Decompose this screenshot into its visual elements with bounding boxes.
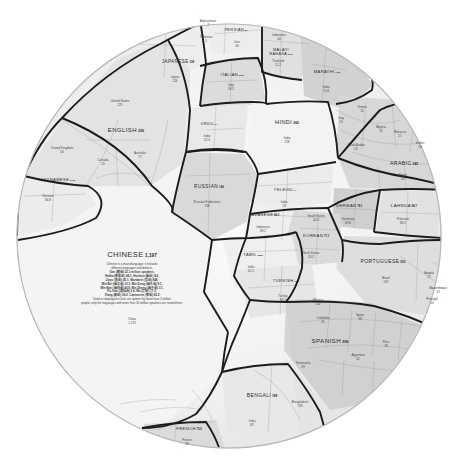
country-label: Yemen15: [357, 106, 367, 113]
country-label: Russian Federation138: [194, 201, 221, 208]
country-label: Argentina41: [351, 354, 364, 361]
country-value: 41: [356, 357, 359, 361]
chinese-macrolanguage-note: Chinese is a macrolanguage: it includesd…: [67, 263, 197, 306]
country-label: Angola12: [424, 272, 434, 279]
voronoi-circle-svg: [0, 0, 458, 473]
country-label: India52.3: [204, 135, 211, 142]
country-label: China1,191: [128, 318, 136, 325]
country-value: 17: [138, 155, 141, 159]
country-value: 1,191: [128, 321, 136, 325]
country-value: 21: [398, 134, 401, 138]
country-label: India258: [284, 137, 291, 144]
country-value: 15: [360, 109, 363, 113]
country-value: 52.3: [204, 138, 210, 142]
country-label: France59: [182, 439, 192, 446]
country-label: Indonesia44: [272, 34, 285, 41]
country-label: Turkey66.3: [278, 295, 287, 302]
country-value: 69.8: [345, 221, 351, 225]
country-label: Colombia45: [316, 317, 329, 324]
country-label: Japan126: [171, 76, 179, 83]
country-label: Saudi Arabia24: [347, 144, 365, 151]
country-value: 32: [379, 129, 382, 133]
country-label: Indonesia83.2: [256, 226, 269, 233]
country-value: 45: [321, 320, 324, 324]
country-value: 66.3: [280, 298, 286, 302]
language-treemap-infographic: CHINESE 1,197China1,191SPANISH 399Mexico…: [0, 0, 458, 473]
country-value: 138: [204, 204, 209, 208]
country-label: United Kingdom56: [51, 147, 73, 154]
shade-overlay: [286, 302, 440, 441]
cell-urdu: [184, 104, 248, 152]
country-value: 58.5: [228, 87, 234, 91]
country-value: 83.2: [260, 229, 266, 233]
country-value: 44: [277, 37, 280, 41]
country-value: 13: [436, 290, 439, 294]
country-label: Canada20: [98, 159, 109, 166]
country-label: India82: [249, 420, 256, 427]
country-label: Afghanistan7: [200, 20, 216, 27]
country-value: 225: [117, 103, 122, 107]
country-value: 24: [354, 147, 357, 151]
country-value: 258: [284, 140, 289, 144]
country-value: 86.2: [400, 221, 406, 225]
country-value: 82: [250, 423, 253, 427]
country-label: India74: [281, 201, 288, 208]
country-value: 12.2: [275, 63, 281, 67]
country-label: Bangladesh159: [292, 401, 308, 408]
country-value: 26: [384, 344, 387, 348]
country-value: 74: [282, 204, 285, 208]
country-label: Vietnam66.8: [42, 195, 53, 202]
country-value: 18: [418, 145, 421, 149]
country-value: 7: [207, 23, 209, 27]
country-label: India61.5: [248, 266, 255, 273]
country-label: Iraq24: [338, 117, 343, 124]
country-value: 44: [235, 44, 238, 48]
cell-lahnda: [376, 190, 440, 238]
country-value: 20: [101, 162, 104, 166]
country-label: North Korea24.2: [303, 252, 320, 259]
country-value: 59: [185, 442, 188, 446]
country-label: United States225: [111, 100, 130, 107]
country-value: 126: [172, 79, 177, 83]
country-value: 66.8: [45, 198, 51, 202]
country-label: Venezuela29: [296, 362, 310, 369]
cell-hindi: [248, 100, 338, 170]
country-label: Mozambique13: [429, 287, 447, 294]
country-value: 12: [427, 275, 430, 279]
country-label: Germany69.8: [342, 218, 355, 225]
country-label: Mexico102: [313, 299, 323, 306]
country-value: 38: [358, 317, 361, 321]
country-label: Australia17: [134, 152, 146, 159]
country-label: Peru26: [383, 341, 390, 348]
country-label: Algeria32: [376, 126, 386, 133]
country-value: 65: [401, 177, 404, 181]
country-label: Egypt65: [399, 174, 407, 181]
country-label: Sudan18: [416, 142, 425, 149]
country-value: 56: [60, 150, 63, 154]
country-label: India71.8: [323, 86, 330, 93]
country-value: 10: [430, 301, 433, 305]
country-value: 29: [301, 365, 304, 369]
country-value: 24: [339, 120, 342, 124]
country-label: Portugal10: [426, 298, 438, 305]
country-value: 61.5: [248, 269, 254, 273]
country-label: Tajikistan5: [200, 36, 213, 43]
cell-group: [17, 12, 444, 464]
country-label: Pakistan86.2: [397, 218, 409, 225]
country-label: Italy58.5: [228, 84, 234, 91]
country-label: Spain38: [356, 314, 364, 321]
country-label: Brazil207: [382, 277, 390, 284]
country-value: 207: [383, 280, 388, 284]
country-value: 102: [315, 302, 320, 306]
country-value: 24.2: [308, 255, 314, 259]
country-value: 71.8: [323, 89, 329, 93]
country-value: 5: [205, 39, 207, 43]
country-label: Iran44: [234, 41, 239, 48]
country-value: 40.3: [313, 218, 319, 222]
note-footer-2: people; only the languages with more tha…: [67, 302, 197, 306]
country-label: Morocco21: [394, 131, 406, 138]
country-value: 159: [297, 404, 302, 408]
country-label: Thailand12.2: [272, 60, 284, 67]
country-label: South Korea40.3: [307, 215, 324, 222]
